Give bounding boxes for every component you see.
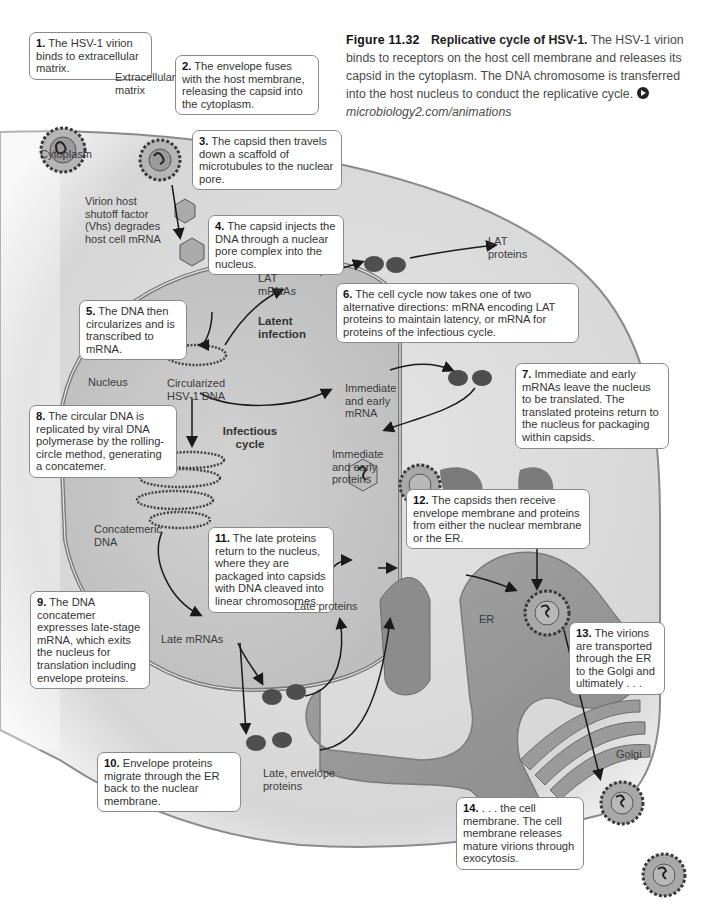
step-text: The capsid then travels down a scaffold …	[199, 135, 333, 185]
label-nucleus: Nucleus	[88, 376, 128, 389]
step-number: 9.	[37, 596, 46, 608]
label-cytoplasm: Cytoplasm	[40, 148, 92, 161]
label-concatemeric-dna: Concatemeric DNA	[94, 523, 164, 548]
step-number: 8.	[36, 410, 45, 422]
step-text: The capsid injects the DNA through a nuc…	[215, 220, 335, 270]
figure-number: Figure 11.32	[346, 33, 420, 47]
label-lat-proteins: LAT proteins	[488, 235, 528, 260]
virion-fusing	[140, 140, 180, 180]
play-circle-icon[interactable]	[637, 87, 649, 99]
step-12-callout: 12. The capsids then receive envelope me…	[406, 489, 590, 549]
label-immediate-early-proteins: Immediate and early proteins	[332, 448, 402, 486]
step-number: 10.	[104, 757, 120, 769]
step-text: The capsids then receive envelope membra…	[413, 494, 582, 544]
step-6-callout: 6. The cell cycle now takes one of two a…	[336, 283, 579, 343]
step-5-callout: 5. The DNA then circularizes and is tran…	[79, 300, 187, 360]
label-vhs: Virion host shutoff factor (Vhs) degrade…	[85, 195, 163, 245]
label-late-proteins: Late proteins	[294, 600, 358, 613]
animation-link[interactable]: microbiology2.com/animations	[346, 105, 511, 119]
label-er: ER	[479, 613, 494, 626]
label-latent-infection: Latent infection	[258, 315, 308, 340]
step-3-callout: 3. The capsid then travels down a scaffo…	[192, 130, 342, 190]
figure-caption: Figure 11.32 Replicative cycle of HSV-1.…	[346, 31, 702, 121]
step-8-callout: 8. The circular DNA is replicated by vir…	[29, 405, 177, 478]
step-number: 5.	[86, 305, 95, 317]
virion-golgi	[525, 591, 569, 635]
step-number: 1.	[36, 37, 45, 49]
virion-exocytosis	[601, 782, 643, 824]
virion-released	[643, 854, 685, 896]
step-number: 3.	[199, 135, 208, 147]
label-extracellular-matrix: Extracellular matrix	[115, 71, 175, 96]
step-text: The cell cycle now takes one of two alte…	[343, 288, 555, 338]
step-text: . . . the cell membrane. The cell membra…	[463, 802, 574, 864]
figure-title: Replicative cycle of HSV-1.	[431, 33, 588, 47]
step-10-callout: 10. Envelope proteins migrate through th…	[97, 752, 241, 812]
step-text: Immediate and early mRNAs leave the nucl…	[522, 368, 659, 443]
step-number: 12.	[413, 494, 429, 506]
step-number: 6.	[343, 288, 352, 300]
step-text: Envelope proteins migrate through the ER…	[104, 757, 220, 807]
label-infectious-cycle: Infectious cycle	[222, 425, 278, 450]
label-lat-mrnas: LAT mRNAs	[258, 272, 298, 297]
step-text: The DNA concatemer expresses late-stage …	[37, 596, 140, 684]
step-13-callout: 13. The virions are transported through …	[569, 622, 665, 695]
step-number: 2.	[182, 60, 191, 72]
step-text: The HSV-1 virion binds to extracellular …	[36, 37, 139, 74]
step-number: 4.	[215, 220, 224, 232]
label-late-envelope-proteins: Late, envelope proteins	[263, 767, 343, 792]
label-circularized-dna: Circularized HSV-1 DNA	[166, 377, 226, 402]
step-14-callout: 14. . . . the cell membrane. The cell me…	[456, 797, 584, 870]
step-9-callout: 9. The DNA concatemer expresses late-sta…	[30, 591, 150, 689]
step-7-callout: 7. Immediate and early mRNAs leave the n…	[515, 363, 669, 449]
step-text: The DNA then circularizes and is transcr…	[86, 305, 175, 355]
step-number: 7.	[522, 368, 531, 380]
label-immediate-early-mrna: Immediate and early mRNA	[345, 382, 415, 420]
step-number: 11.	[215, 532, 230, 544]
label-golgi: Golgi	[616, 748, 642, 761]
step-text: The late proteins return to the nucleus,…	[215, 532, 326, 607]
step-2-callout: 2. The envelope fuses with the host memb…	[175, 55, 319, 115]
step-number: 14.	[463, 802, 479, 814]
hsv1-replication-diagram: Figure 11.32 Replicative cycle of HSV-1.…	[0, 0, 707, 914]
step-text: The circular DNA is replicated by viral …	[36, 410, 164, 472]
step-number: 13.	[576, 627, 592, 639]
step-text: The envelope fuses with the host membran…	[182, 60, 305, 110]
step-4-callout: 4. The capsid injects the DNA through a …	[208, 215, 344, 275]
label-late-mrnas: Late mRNAs	[161, 633, 223, 646]
